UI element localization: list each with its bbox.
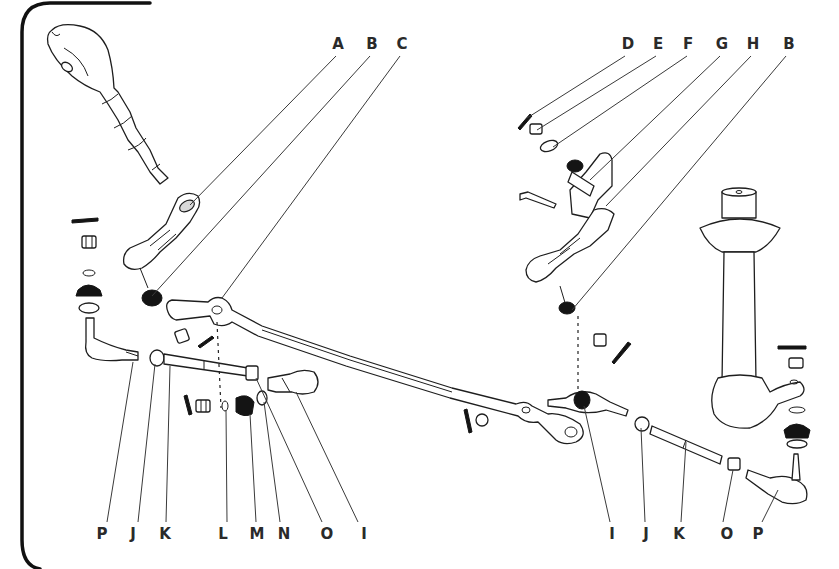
callout-label-d: D [622, 35, 634, 53]
callout-label-o-left: O [321, 525, 334, 543]
callout-label-j-left: J [129, 525, 136, 543]
leader-line-g [590, 56, 720, 180]
callout-label-p-right: P [753, 525, 764, 543]
leader-line-d [527, 56, 625, 118]
steering-linkage-diagram: A B C D E F G H B P J K L M N O I I J K … [0, 0, 839, 569]
callout-label-n: N [278, 525, 291, 543]
top-callouts: A B C D E F G H B [152, 35, 795, 310]
callout-label-k-right: K [673, 525, 686, 543]
callout-label-p-left: P [97, 525, 108, 543]
leader-line-i-left [296, 392, 358, 522]
leader-line-b-left [152, 56, 370, 296]
idler-arm-assembly [518, 114, 614, 314]
callout-label-j-right: J [642, 525, 649, 543]
callout-label-m: M [250, 525, 265, 543]
callout-label-l: L [218, 525, 228, 543]
callout-label-b-left: B [366, 35, 377, 53]
callout-label-g: G [716, 35, 728, 53]
callout-label-f: F [683, 35, 693, 53]
leader-line-i-right [584, 406, 610, 522]
callout-label-b-right: B [783, 35, 794, 53]
leader-line-o-left [256, 378, 322, 522]
leader-line-j-right [641, 428, 645, 522]
leader-line-n [264, 402, 280, 522]
leader-line-e [537, 56, 656, 130]
callout-label-h: H [747, 35, 760, 53]
leader-line-k-right [681, 442, 686, 522]
pitman-arm-detail-illustration [48, 25, 169, 184]
callout-label-c: C [396, 35, 407, 53]
steering-knuckle-illustration [700, 188, 810, 448]
leader-line-f [553, 56, 687, 147]
callout-label-k-left: K [159, 525, 172, 543]
leader-line-o-right [723, 470, 733, 522]
callout-label-o-right: O [721, 525, 734, 543]
callout-label-i-left: I [361, 525, 367, 543]
callout-label-e: E [653, 35, 663, 53]
leader-line-p-left [107, 362, 133, 522]
leader-line-l [226, 410, 227, 522]
callout-label-i-right: I [609, 525, 615, 543]
pitman-arm-part-a [124, 193, 200, 306]
leader-line-a [190, 56, 336, 205]
diagram-canvas: A B C D E F G H B P J K L M N O I I J K … [0, 0, 839, 569]
leader-line-c [222, 56, 400, 298]
callout-label-a: A [332, 35, 344, 53]
right-tie-rod-assembly [635, 417, 807, 504]
leader-line-m [250, 414, 256, 522]
leader-line-j-left [138, 364, 155, 522]
leader-line-k-left [166, 366, 170, 522]
